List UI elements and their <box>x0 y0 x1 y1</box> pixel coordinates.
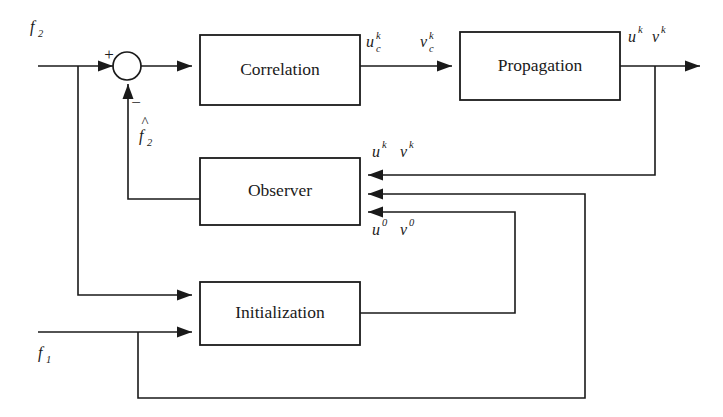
signal-vk-obs-superscript: k <box>409 139 414 150</box>
signal-vk-obs-base: v <box>400 143 408 160</box>
block-correlation[interactable]: Correlation <box>200 35 360 105</box>
signal-vck-subscript: c <box>429 43 434 54</box>
block-diagram-canvas: Correlation Propagation Observer Initial… <box>0 0 723 417</box>
summing-junction-plus-sign: + <box>104 45 114 64</box>
signal-v0-obs-base: v <box>400 221 408 238</box>
signal-label-f1: f 1 <box>38 344 51 365</box>
summing-junction-circle <box>113 52 141 80</box>
signal-label-vc-k: v c k <box>420 30 434 54</box>
signal-uk-obs-superscript: k <box>382 139 387 150</box>
signal-label-u0-v0-observer: u 0 v 0 <box>372 217 415 238</box>
signal-label-uk-vk-observer: u k v k <box>372 139 414 160</box>
signal-u0-obs-superscript: 0 <box>382 217 388 228</box>
block-observer[interactable]: Observer <box>200 158 360 225</box>
signal-u0-obs-base: u <box>372 221 380 238</box>
arrowhead-propagation-output <box>685 61 700 72</box>
arrowhead-uk-vk-to-observer <box>368 170 383 181</box>
signal-f2-base: f <box>30 18 37 36</box>
signal-f1-base: f <box>38 344 45 362</box>
signal-vck-base: v <box>420 33 428 50</box>
signal-uk-out-superscript: k <box>638 24 643 35</box>
signal-uck-base: u <box>366 33 374 50</box>
signal-uk-out-base: u <box>628 28 636 45</box>
signal-f2hat-subscript: 2 <box>147 137 153 148</box>
signal-v0-obs-superscript: 0 <box>409 217 415 228</box>
signal-label-f2-hat: ^ f 2 <box>139 114 153 148</box>
signal-label-uc-k: u c k <box>366 30 381 54</box>
signal-uck-superscript: k <box>376 30 381 41</box>
block-propagation-label: Propagation <box>498 55 583 75</box>
signal-vck-superscript: k <box>429 30 434 41</box>
block-initialization-label: Initialization <box>235 302 325 322</box>
arrowhead-sum-to-correlation <box>177 61 192 72</box>
block-observer-label: Observer <box>248 180 312 200</box>
arrowhead-correlation-to-propagation <box>437 61 452 72</box>
block-propagation[interactable]: Propagation <box>460 32 620 100</box>
signal-vk-out-superscript: k <box>661 24 666 35</box>
block-correlation-label: Correlation <box>240 59 320 79</box>
summing-junction[interactable]: + − <box>104 45 141 112</box>
signal-f2-subscript: 2 <box>38 28 44 39</box>
arrowhead-f1-to-init <box>177 327 192 338</box>
summing-junction-minus-sign: − <box>131 93 141 112</box>
block-diagram-svg: Correlation Propagation Observer Initial… <box>0 0 723 417</box>
signal-label-uk-vk-output: u k v k <box>628 24 666 45</box>
signal-uk-obs-base: u <box>372 143 380 160</box>
arrowhead-f2-to-init <box>177 290 192 301</box>
arrowhead-bottom-loop-to-observer <box>368 189 383 200</box>
signal-uck-subscript: c <box>376 43 381 54</box>
signal-vk-out-base: v <box>652 28 660 45</box>
signal-f1-subscript: 1 <box>46 354 51 365</box>
arrowhead-u0-v0-to-observer <box>368 207 383 218</box>
signal-label-f2: f 2 <box>30 18 44 39</box>
block-initialization[interactable]: Initialization <box>200 282 360 345</box>
